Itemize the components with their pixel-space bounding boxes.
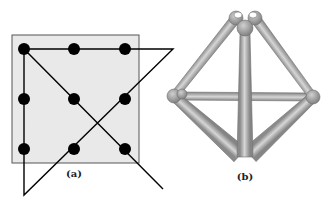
- node-left-front: [177, 89, 187, 99]
- rod: [171, 15, 240, 99]
- dot: [68, 43, 80, 55]
- dot: [68, 93, 80, 105]
- dot: [18, 93, 30, 105]
- rod: [237, 34, 253, 157]
- dot: [18, 143, 30, 155]
- rod: [244, 93, 316, 161]
- caption-b: (b): [237, 171, 253, 182]
- figure-canvas: [0, 0, 330, 210]
- dot: [18, 43, 30, 55]
- lone-pair-lobe: [249, 12, 257, 18]
- rod: [251, 15, 316, 99]
- node-top-center: [237, 20, 253, 36]
- panel-a-nine-dots: [12, 35, 173, 195]
- node-right: [306, 90, 320, 104]
- dot: [119, 43, 131, 55]
- dot: [119, 143, 131, 155]
- lone-pair-lobe: [234, 12, 242, 18]
- dot: [119, 93, 131, 105]
- panel-b-tetrahedron: [167, 11, 320, 162]
- dot: [68, 143, 80, 155]
- rod: [171, 92, 246, 161]
- caption-a: (a): [66, 168, 82, 179]
